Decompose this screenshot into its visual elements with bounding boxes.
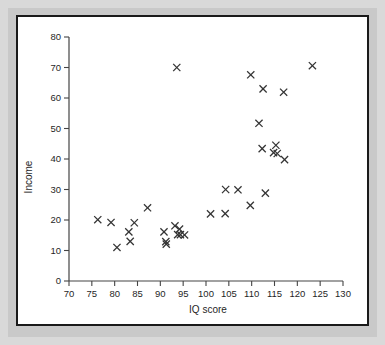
x-tick-label: 105 bbox=[221, 288, 237, 299]
figure-frame: 01020304050607080 7075808590951001051101… bbox=[0, 0, 385, 345]
x-tick-label: 115 bbox=[267, 288, 282, 299]
x-tick-label: 100 bbox=[198, 288, 214, 299]
data-point bbox=[247, 202, 254, 209]
y-tick-label: 60 bbox=[50, 92, 61, 103]
x-tick-label: 70 bbox=[64, 288, 75, 299]
x-axis: 707580859095100105110115120125130 bbox=[64, 281, 351, 299]
data-point bbox=[259, 145, 266, 152]
y-tick-label: 80 bbox=[50, 31, 61, 42]
data-markers bbox=[94, 62, 316, 251]
data-point bbox=[280, 89, 287, 96]
data-point bbox=[113, 244, 120, 251]
scatter-chart: 01020304050607080 7075808590951001051101… bbox=[18, 17, 367, 324]
data-point bbox=[173, 64, 180, 71]
plot-area: 01020304050607080 7075808590951001051101… bbox=[18, 17, 367, 324]
data-point bbox=[259, 85, 266, 92]
x-tick-label: 75 bbox=[87, 288, 98, 299]
scatter-plot-panel: 01020304050607080 7075808590951001051101… bbox=[16, 15, 369, 326]
x-tick-label: 90 bbox=[155, 288, 166, 299]
data-point bbox=[281, 156, 288, 163]
data-point bbox=[131, 219, 138, 226]
x-axis-title: IQ score bbox=[189, 304, 227, 315]
data-point bbox=[127, 238, 134, 245]
data-point bbox=[207, 210, 214, 217]
data-point bbox=[125, 228, 132, 235]
data-point bbox=[234, 186, 241, 193]
y-tick-label: 70 bbox=[50, 62, 61, 73]
data-point bbox=[247, 71, 254, 78]
data-point bbox=[309, 62, 316, 69]
y-tick-label: 40 bbox=[50, 153, 61, 164]
data-point bbox=[222, 210, 229, 217]
y-tick-label: 0 bbox=[56, 275, 61, 286]
x-tick-label: 130 bbox=[335, 288, 351, 299]
y-tick-label: 30 bbox=[50, 184, 61, 195]
x-tick-label: 85 bbox=[132, 288, 143, 299]
data-point bbox=[255, 120, 262, 127]
y-axis: 01020304050607080 bbox=[50, 31, 69, 286]
data-point bbox=[107, 219, 114, 226]
data-point bbox=[262, 190, 269, 197]
data-point bbox=[144, 204, 151, 211]
data-point bbox=[222, 186, 229, 193]
x-tick-label: 125 bbox=[312, 288, 328, 299]
y-tick-label: 50 bbox=[50, 123, 61, 134]
x-tick-label: 120 bbox=[289, 288, 305, 299]
x-tick-label: 95 bbox=[178, 288, 189, 299]
data-point bbox=[160, 228, 167, 235]
data-point bbox=[94, 216, 101, 223]
y-tick-label: 10 bbox=[50, 245, 61, 256]
data-point bbox=[181, 231, 188, 238]
x-tick-label: 80 bbox=[109, 288, 120, 299]
x-tick-label: 110 bbox=[244, 288, 259, 299]
data-point bbox=[272, 142, 279, 149]
y-tick-label: 20 bbox=[50, 214, 61, 225]
data-point bbox=[171, 222, 178, 229]
y-axis-title: Income bbox=[23, 160, 34, 193]
